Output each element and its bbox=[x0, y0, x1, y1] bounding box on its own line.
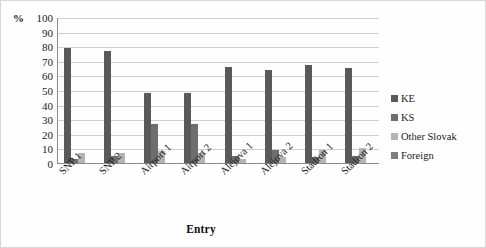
legend-swatch-icon bbox=[391, 152, 398, 159]
y-axis-tick: 50 bbox=[42, 86, 53, 97]
bar-group bbox=[259, 18, 299, 163]
y-axis-tick: 40 bbox=[42, 101, 53, 112]
bar bbox=[144, 93, 151, 163]
legend-label: KE bbox=[401, 93, 415, 104]
x-axis-tick-labels: SNP 1SNP 2Airport 1Airport 2Alejova 1Ale… bbox=[57, 165, 379, 211]
legend-swatch-icon bbox=[391, 114, 398, 121]
bar bbox=[305, 65, 312, 163]
bar-group bbox=[219, 18, 259, 163]
legend-item: Other Slovak bbox=[391, 127, 485, 146]
y-axis-tick: 10 bbox=[42, 144, 53, 155]
y-axis-tick: 90 bbox=[42, 28, 53, 39]
y-axis-tick: 100 bbox=[37, 13, 54, 24]
bar-group bbox=[339, 18, 379, 163]
legend-label: KS bbox=[401, 112, 414, 123]
bar bbox=[104, 51, 111, 163]
bar-group bbox=[58, 18, 98, 163]
y-axis-unit-label: % bbox=[13, 12, 24, 24]
bar-group bbox=[178, 18, 218, 163]
y-axis-tick: 30 bbox=[42, 115, 53, 126]
bar-groups bbox=[58, 18, 379, 163]
y-axis-tick: 70 bbox=[42, 57, 53, 68]
y-axis-tick: 20 bbox=[42, 130, 53, 141]
y-axis-tick-labels: 1009080706050403020100 bbox=[27, 12, 53, 170]
legend-label: Foreign bbox=[401, 150, 434, 161]
chart-legend: KEKSOther SlovakForeign bbox=[391, 89, 485, 165]
bar bbox=[184, 93, 191, 163]
legend-swatch-icon bbox=[391, 95, 398, 102]
y-axis-tick: 60 bbox=[42, 71, 53, 82]
bar bbox=[345, 68, 352, 163]
legend-item: KE bbox=[391, 89, 485, 108]
y-axis-tick: 80 bbox=[42, 42, 53, 53]
bar-group bbox=[299, 18, 339, 163]
bar bbox=[265, 70, 272, 163]
bar-chart-figure: % 1009080706050403020100 SNP 1SNP 2Airpo… bbox=[0, 0, 486, 248]
bar-group bbox=[138, 18, 178, 163]
y-axis-tick: 0 bbox=[48, 159, 54, 170]
bar bbox=[64, 48, 71, 163]
legend-label: Other Slovak bbox=[401, 131, 457, 142]
x-axis-title: Entry bbox=[1, 223, 401, 235]
legend-swatch-icon bbox=[391, 133, 398, 140]
legend-item: Foreign bbox=[391, 146, 485, 165]
bar bbox=[225, 67, 232, 163]
plot-area bbox=[57, 18, 379, 164]
bar-group bbox=[98, 18, 138, 163]
legend-item: KS bbox=[391, 108, 485, 127]
